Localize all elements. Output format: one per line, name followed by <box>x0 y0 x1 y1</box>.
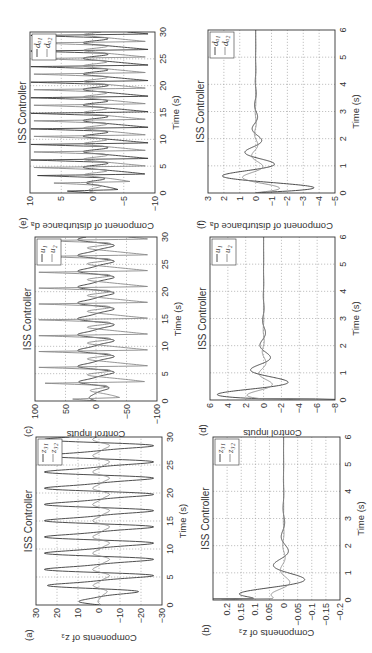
x-tick-label: 3 <box>343 516 353 521</box>
panel-b: 01234560.20.150.10.050−0.05−0.1−0.15−0.2… <box>142 434 366 639</box>
y-axis-label: Components of z₃ <box>61 633 137 644</box>
x-axis-label: Time (s) <box>350 301 361 335</box>
panel-letter: (a) <box>23 629 34 641</box>
x-tick-label: 2 <box>338 343 348 348</box>
legend: dₐ₁dₐ₂ <box>210 32 234 58</box>
y-tick-label: 1 <box>235 196 245 201</box>
y-tick-label: 0 <box>91 404 101 409</box>
legend: u₁u₂ <box>37 239 61 265</box>
y-tick-label: −6 <box>312 403 322 413</box>
legend-label: dₐ₂ <box>220 36 230 46</box>
x-tick-label: 25 <box>158 54 168 64</box>
y-tick-label: 30 <box>31 608 41 618</box>
x-tick-label: 15 <box>165 516 175 526</box>
y-tick-label: −8 <box>330 403 340 413</box>
y-tick-label: 100 <box>30 404 40 419</box>
legend-label: z₃₂ <box>225 443 235 454</box>
legend: z₃₁z₃₂ <box>38 439 62 465</box>
y-tick-label: 0.05 <box>264 603 274 621</box>
legend: u₁u₂ <box>212 239 236 265</box>
x-tick-label: 25 <box>160 259 170 269</box>
y-axis-label: Components of z₃ <box>239 628 315 639</box>
x-tick-label: 0 <box>338 190 348 195</box>
x-tick-label: 5 <box>343 462 353 467</box>
y-tick-label: −4 <box>314 196 324 206</box>
plot-title: ISS Controller <box>17 81 28 144</box>
y-tick-label: −0.05 <box>293 603 303 626</box>
y-tick-label: 2 <box>241 403 251 408</box>
x-tick-label: 4 <box>338 82 348 87</box>
x-tick-label: 5 <box>160 371 170 376</box>
x-tick-label: 1 <box>338 370 348 375</box>
legend-label: u₂ <box>47 245 57 253</box>
x-tick-label: 5 <box>158 164 168 169</box>
x-tick-label: 1 <box>343 570 353 575</box>
plot-title: ISS Controller <box>200 487 211 550</box>
legend-label: z₃₂ <box>48 443 58 454</box>
x-tick-label: 0 <box>338 397 348 402</box>
x-tick-label: 30 <box>165 432 175 442</box>
y-tick-label: −3 <box>298 196 308 206</box>
y-axis-label: Component of disturbance dₐ <box>31 221 154 232</box>
legend-label: z₃₁ <box>215 443 225 454</box>
x-tick-label: 5 <box>165 574 175 579</box>
y-tick-label: −30 <box>157 608 167 623</box>
plot-title: ISS Controller <box>197 287 208 350</box>
legend: z₃₁z₃₂ <box>215 439 239 465</box>
x-tick-label: 5 <box>338 55 348 60</box>
y-axis-label: Control inputs <box>66 429 125 440</box>
x-tick-label: 3 <box>338 316 348 321</box>
plot-title: ISS Controller <box>23 489 34 552</box>
y-tick-label: 50 <box>61 404 71 414</box>
plot-title: ISS Controller <box>22 287 33 350</box>
y-tick-label: 3 <box>203 196 213 201</box>
y-tick-label: 10 <box>73 608 83 618</box>
y-axis-label: Component of disturbance dₐ <box>210 221 333 232</box>
x-tick-label: 20 <box>160 287 170 297</box>
y-tick-label: 4 <box>223 403 233 408</box>
y-tick-label: −0.2 <box>335 603 345 621</box>
y-tick-label: −1 <box>267 196 277 206</box>
y-tick-label: −5 <box>330 196 340 206</box>
y-tick-label: 0 <box>94 608 104 613</box>
panel-letter: (c) <box>22 426 33 437</box>
x-tick-label: 1 <box>338 163 348 168</box>
y-tick-label: 0 <box>279 603 289 608</box>
y-tick-label: −0.15 <box>321 603 331 626</box>
legend-label: dₐ₁ <box>210 36 220 46</box>
y-tick-label: −20 <box>136 608 146 623</box>
y-tick-label: −50 <box>122 404 132 419</box>
x-tick-label: 10 <box>160 341 170 351</box>
x-axis-label: Time (s) <box>355 501 366 535</box>
x-tick-label: 20 <box>165 488 175 498</box>
x-tick-label: 0 <box>165 602 175 607</box>
y-tick-label: 10 <box>25 196 35 206</box>
x-axis-label: Time (s) <box>350 94 361 128</box>
x-tick-label: 30 <box>158 27 168 37</box>
x-tick-label: 2 <box>338 136 348 141</box>
legend: dₐ₁dₐ₂ <box>32 34 56 60</box>
legend-label: z₃₁ <box>38 443 48 454</box>
figure-canvas: 0510152025303020100−10−20−30z₃₁z₃₂ISS Co… <box>0 0 372 653</box>
y-tick-label: 0.2 <box>222 603 232 616</box>
legend-label: dₐ₁ <box>32 38 42 48</box>
y-tick-label: −10 <box>115 608 125 623</box>
y-tick-label: −5 <box>119 196 129 206</box>
x-tick-label: 6 <box>338 234 348 239</box>
y-tick-label: 0 <box>88 196 98 201</box>
plot-title: ISS Controller <box>195 80 206 143</box>
y-tick-label: −4 <box>294 403 304 413</box>
panel-letter: (f) <box>195 220 206 229</box>
panel-letter: (e) <box>17 217 28 229</box>
x-tick-label: 5 <box>338 262 348 267</box>
y-tick-label: 0.15 <box>236 603 246 621</box>
x-tick-label: 4 <box>343 489 353 494</box>
legend-label: u₁ <box>212 245 222 253</box>
panel-letter: (d) <box>197 424 208 436</box>
x-tick-label: 2 <box>343 543 353 548</box>
y-tick-label: 5 <box>56 196 66 201</box>
legend-label: u₂ <box>222 245 232 253</box>
y-tick-label: 0 <box>251 196 261 201</box>
x-tick-label: 3 <box>338 109 348 114</box>
y-tick-label: −0.1 <box>307 603 317 621</box>
